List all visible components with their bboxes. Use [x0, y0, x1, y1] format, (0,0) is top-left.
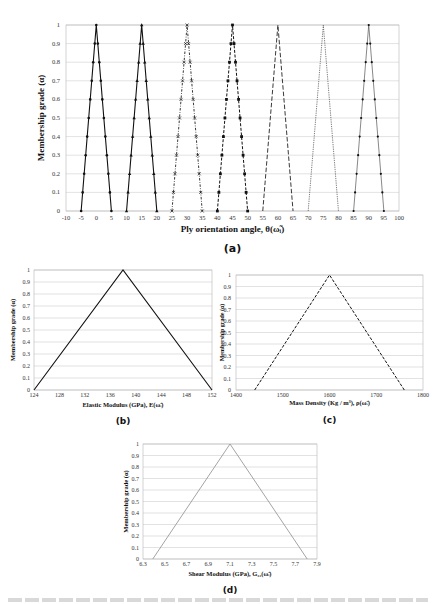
x-tick-label: 10 — [123, 214, 130, 221]
x-tick-label: 7.3 — [248, 561, 256, 567]
x-tick-label: 7.9 — [313, 561, 321, 567]
x-tick-label: 70 — [305, 214, 312, 221]
x-tick-label: 60 — [275, 214, 282, 221]
chart-a: 00.10.20.30.40.50.60.70.80.91-10-5051015… — [36, 21, 404, 255]
x-tick-label: 85 — [350, 214, 357, 221]
x-tick-label: 136 — [106, 392, 115, 398]
y-tick-label: 0.9 — [132, 453, 140, 459]
y-tick-label: 0.8 — [52, 58, 60, 65]
x-tick-label: 1400 — [230, 392, 242, 398]
x-tick-label: -5 — [78, 214, 83, 221]
y-tick-label: 0.1 — [52, 188, 60, 195]
x-axis-title: Mass Density (Kg / m³), ρ(ω̃ᵢ) — [289, 399, 370, 407]
x-tick-label: 45 — [229, 214, 236, 221]
x-axis-title: Ply orientation angle, θ(ω̃ᵢ) — [181, 224, 284, 234]
y-tick-label: 0.6 — [23, 315, 31, 321]
x-tick-label: 90 — [365, 214, 372, 221]
y-tick-label: 0.6 — [52, 95, 61, 102]
y-tick-label: 0.2 — [132, 533, 140, 539]
x-tick-label: 6.3 — [139, 561, 147, 567]
y-tick-label: 1 — [27, 267, 30, 273]
y-tick-label: 0.4 — [23, 339, 31, 345]
panel-label: (d) — [223, 585, 238, 595]
x-tick-label: 25 — [169, 214, 176, 221]
x-tick-label: -10 — [62, 214, 71, 221]
x-tick-label: 1600 — [324, 392, 336, 398]
x-tick-label: 20 — [154, 214, 161, 221]
y-tick-label: 0.4 — [52, 133, 61, 140]
x-tick-label: 1500 — [277, 392, 289, 398]
y-axis-title: Membership grade (α) — [9, 299, 17, 361]
x-tick-label: 75 — [320, 214, 327, 221]
y-tick-label: 0.3 — [132, 522, 140, 528]
x-tick-label: 1800 — [417, 392, 429, 398]
x-tick-label: 50 — [244, 214, 251, 221]
y-tick-label: 1 — [228, 272, 231, 278]
x-tick-label: 144 — [157, 392, 166, 398]
panel-label: (c) — [323, 415, 337, 425]
x-tick-label: 140 — [131, 392, 140, 398]
y-tick-label: 0 — [57, 207, 60, 214]
x-tick-label: 152 — [208, 392, 217, 398]
chart-b: 00.10.20.30.40.50.60.70.80.9112412813213… — [9, 267, 217, 426]
x-tick-label: 6.9 — [205, 561, 213, 567]
x-tick-label: 0 — [95, 214, 98, 221]
y-tick-label: 0.3 — [52, 151, 60, 158]
y-tick-label: 0.9 — [52, 40, 60, 47]
y-tick-label: 0.7 — [132, 476, 140, 482]
y-tick-label: 1 — [136, 441, 139, 447]
x-tick-label: 128 — [55, 392, 64, 398]
x-tick-label: 40 — [214, 214, 221, 221]
gridlines — [34, 270, 212, 390]
x-tick-label: 124 — [30, 392, 39, 398]
y-axis-title: Membership grade (α) — [122, 470, 130, 532]
x-tick-label: 6.7 — [183, 561, 191, 567]
y-tick-label: 0.3 — [23, 351, 31, 357]
x-tick-label: 6.5 — [161, 561, 169, 567]
gridlines — [66, 25, 399, 211]
y-tick-label: 0.5 — [52, 114, 60, 121]
panel-label: (b) — [116, 416, 131, 426]
x-tick-label: 65 — [290, 214, 297, 221]
x-tick-label: 95 — [381, 214, 388, 221]
chart-c: 00.10.20.30.40.50.60.70.80.9114001500160… — [219, 272, 429, 425]
y-tick-label: 0.5 — [23, 327, 31, 333]
y-axis-title: Membership grade (α) — [219, 304, 226, 362]
x-tick-label: 7.7 — [292, 561, 300, 567]
y-tick-label: 0.7 — [23, 303, 31, 309]
x-tick-label: 132 — [80, 392, 89, 398]
x-tick-label: 80 — [335, 214, 342, 221]
y-tick-label: 0.8 — [224, 295, 232, 301]
y-tick-label: 0.2 — [224, 364, 232, 370]
x-tick-label: 15 — [138, 214, 145, 221]
x-axis-title: Elastic Modulus (GPa), E(ω̃ᵢ) — [82, 401, 163, 409]
y-tick-label: 0.1 — [23, 375, 31, 381]
y-tick-label: 0.5 — [132, 499, 140, 505]
x-axis-title: Shear Modulus (GPa), G₁₂(ω̃ᵢ) — [189, 570, 272, 578]
gridlines — [143, 444, 317, 559]
x-tick-label: 7.1 — [226, 561, 234, 567]
y-tick-label: 0.4 — [132, 510, 140, 516]
y-axis-title: Membership grade (α) — [36, 75, 46, 162]
y-tick-label: 0.8 — [132, 464, 140, 470]
y-tick-label: 0.1 — [132, 545, 140, 551]
x-tick-label: 1700 — [370, 392, 382, 398]
y-tick-label: 0.2 — [23, 363, 31, 369]
y-tick-label: 1 — [57, 21, 60, 28]
panel-label: (a) — [224, 242, 241, 255]
x-tick-label: 35 — [199, 214, 206, 221]
x-tick-label: 55 — [260, 214, 267, 221]
x-tick-label: 100 — [394, 214, 404, 221]
y-tick-label: 0.2 — [52, 170, 60, 177]
y-tick-label: 0.8 — [23, 291, 31, 297]
y-tick-label: 0.7 — [52, 77, 61, 84]
y-tick-label: 0.9 — [23, 279, 31, 285]
x-tick-label: 30 — [184, 214, 191, 221]
x-tick-label: 148 — [182, 392, 191, 398]
chart-d: 00.10.20.30.40.50.60.70.80.916.36.56.76.… — [122, 441, 321, 595]
figure-canvas: 00.10.20.30.40.50.60.70.80.91-10-5051015… — [0, 0, 446, 604]
x-tick-label: 5 — [110, 214, 113, 221]
y-tick-label: 0.6 — [132, 487, 140, 493]
gridlines — [236, 275, 423, 390]
figure-caption-cutoff — [8, 598, 428, 602]
